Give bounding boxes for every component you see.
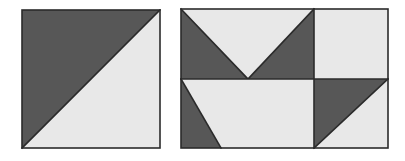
top-right-quadrant-light-square xyxy=(314,9,388,79)
right-block-top-left-quadrant xyxy=(181,9,314,79)
right-block-bottom-left-quadrant xyxy=(181,79,314,148)
right-block-top-right-quadrant xyxy=(314,9,388,79)
geometric-figure-canvas xyxy=(0,0,405,161)
left-block xyxy=(22,10,160,148)
right-block-bottom-right-quadrant xyxy=(314,79,388,148)
right-block xyxy=(181,9,388,148)
